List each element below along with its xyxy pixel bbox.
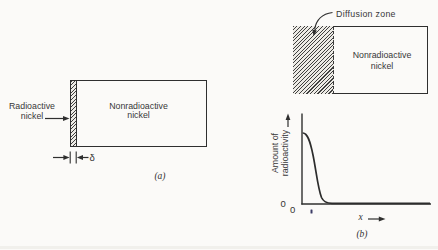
figure-diffusion-couple: Radioactive nickel Nonradioactive nickel…: [0, 0, 438, 250]
panel-b-caption: (b): [349, 229, 375, 239]
panel-a-body-label: Nonradioactive nickel: [77, 102, 200, 121]
diffusion-zone-label: Diffusion zone: [336, 9, 396, 19]
panel-b-body-label: Nonradioactive nickel: [336, 50, 428, 73]
y-axis-label: Amount of radioactivity: [270, 123, 290, 183]
y-origin-label: 0: [281, 198, 286, 209]
x-axis-arrow-icon: [368, 217, 386, 222]
x-origin-label: 0: [290, 204, 295, 215]
radioactive-nickel-label: Radioactive nickel: [4, 102, 60, 121]
x-axis-label: x: [359, 212, 363, 222]
delta-symbol: δ: [90, 152, 95, 163]
decay-curve: [303, 133, 430, 203]
scan-artifact-band: [0, 246, 438, 249]
diffusion-zone-region: [293, 26, 334, 94]
panel-a-caption: (a): [146, 171, 174, 181]
graph-axes: [301, 114, 431, 205]
delta-dimension-marker: [53, 152, 89, 164]
ink-speck: [311, 210, 313, 214]
radioactive-strip: [70, 80, 77, 147]
